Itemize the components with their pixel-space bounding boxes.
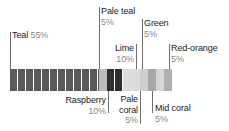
callout-pct-pale-coral: 5%	[116, 115, 138, 126]
leader-line-pale-coral	[140, 91, 141, 124]
callout-pct-raspberry: 10%	[60, 106, 106, 117]
callout-label-lime: Lime 10%	[106, 43, 134, 64]
callout-name-green: Green	[144, 18, 169, 29]
callout-pct-mid-coral: 5%	[155, 114, 191, 125]
bar-segment-mid-coral[interactable]	[156, 69, 164, 91]
callout-name-mid-coral: Mid coral	[155, 103, 191, 114]
stacked-bar-chart: Teal 55% Pale teal 5% Green 5% Lime 10% …	[0, 0, 229, 131]
callout-name-red-orange: Red-orange	[171, 43, 218, 54]
callout-pct-teal: 55%	[31, 30, 49, 40]
bar-segment-teal[interactable]	[10, 69, 99, 91]
leader-line-raspberry	[108, 91, 109, 113]
callout-label-pale-coral: Pale coral 5%	[116, 94, 138, 126]
bar-segment-lime[interactable]	[123, 69, 139, 91]
callout-label-mid-coral: Mid coral 5%	[155, 103, 191, 124]
bar-segment-raspberry[interactable]	[107, 69, 123, 91]
bar-segment-pale-coral[interactable]	[140, 69, 148, 91]
leader-line-pale-teal	[99, 7, 100, 70]
bar-segment-red-orange[interactable]	[164, 69, 172, 91]
callout-label-pale-teal: Pale teal 5%	[101, 6, 135, 27]
callout-label-teal: Teal 55%	[12, 30, 48, 41]
callout-name-pale-coral: Pale	[116, 94, 138, 105]
callout-label-green: Green 5%	[144, 18, 169, 39]
callout-pct-green: 5%	[144, 29, 169, 40]
callout-name-pale-teal: Pale teal	[101, 6, 135, 17]
bar-segment-green[interactable]	[148, 69, 156, 91]
leader-line-teal	[10, 32, 11, 70]
callout-label-raspberry: Raspberry 10%	[60, 95, 106, 116]
callout-name-lime: Lime	[106, 43, 134, 54]
callout-name-pale-coral-line2: coral	[116, 105, 138, 116]
callout-name-raspberry: Raspberry	[60, 95, 106, 106]
callout-pct-pale-teal: 5%	[101, 17, 135, 28]
callout-pct-red-orange: 5%	[171, 54, 218, 65]
callout-name-teal: Teal	[12, 30, 28, 40]
bar-segment-pale-teal[interactable]	[99, 69, 107, 91]
callout-label-red-orange: Red-orange 5%	[171, 43, 218, 64]
leader-line-red-orange	[169, 44, 170, 70]
callout-pct-lime: 10%	[106, 54, 134, 65]
leader-line-green	[142, 19, 143, 70]
leader-line-mid-coral	[152, 91, 153, 113]
leader-line-lime	[136, 44, 137, 70]
stacked-bar	[10, 69, 172, 91]
